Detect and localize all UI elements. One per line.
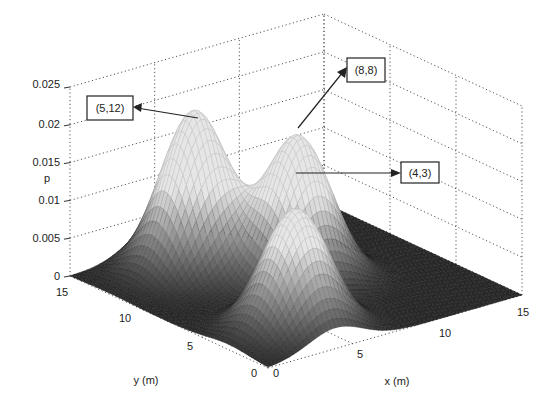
y-tick-label: 10 [119,312,131,324]
z-tick-label: 0.005 [32,232,60,244]
y-tick-label: 5 [187,340,193,352]
callout-5-12: (5,12) [87,96,198,120]
arrowhead-icon [391,169,401,177]
z-tick-label: 0.025 [32,78,60,90]
surface-plot: 0 0.005 0.01 0.015 0.02 0.025 p 0 5 10 1… [0,0,550,416]
surface-mesh [70,110,522,367]
z-tick-label: 0.02 [39,118,60,130]
callout-arrow [298,72,343,128]
y-axis-label: y (m) [133,374,158,386]
z-tick-label: 0 [54,270,60,282]
callout-label: (8,8) [355,64,378,76]
y-tick-label: 0 [251,367,257,379]
x-tick-label: 5 [357,348,363,360]
y-tick-label: 15 [56,286,68,298]
x-tick-label: 10 [439,327,451,339]
callout-label: (4,3) [409,167,432,179]
arrowhead-icon [133,103,142,112]
z-tick-label: 0.01 [39,194,60,206]
z-tick-label: 0.015 [32,156,60,168]
x-tick-label: 15 [517,306,529,318]
callout-label: (5,12) [96,102,125,114]
x-tick-label: 0 [273,367,279,379]
z-axis-label: p [44,172,50,184]
z-axis: 0 0.005 0.01 0.015 0.02 0.025 p [32,78,60,282]
x-axis-label: x (m) [384,375,409,387]
arrowhead-icon [337,67,347,78]
